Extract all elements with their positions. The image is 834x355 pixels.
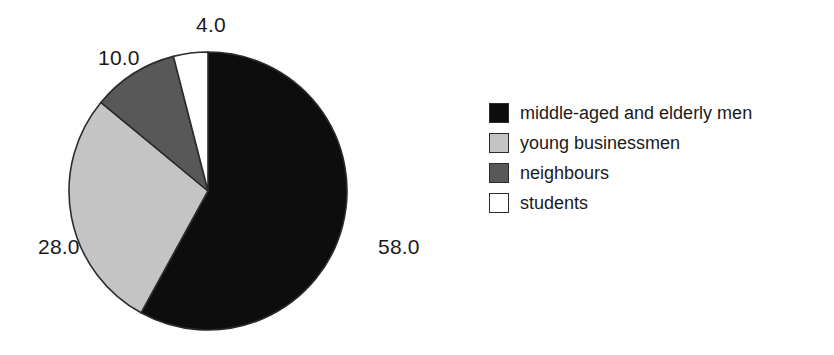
pie-value-label-middle-aged-and-elderly-men: 58.0: [378, 236, 420, 257]
legend-swatch-icon-middle-aged-and-elderly-men: [489, 103, 509, 123]
pie-chart-svg: [0, 0, 450, 355]
chart-legend: middle-aged and elderly men young busine…: [489, 102, 752, 214]
legend-item-middle-aged-and-elderly-men: middle-aged and elderly men: [489, 102, 752, 124]
legend-label-students: students: [520, 194, 588, 212]
legend-label-young-businessmen: young businessmen: [520, 134, 680, 152]
pie-chart-plot-area: 4.0 10.0 28.0 58.0: [0, 0, 450, 355]
legend-swatch-icon-students: [489, 193, 509, 213]
pie-chart-figure: 4.0 10.0 28.0 58.0 middle-aged and elder…: [0, 0, 834, 355]
legend-swatch-icon-neighbours: [489, 163, 509, 183]
pie-value-label-young-businessmen: 28.0: [38, 236, 80, 257]
legend-swatch-icon-young-businessmen: [489, 133, 509, 153]
legend-item-students: students: [489, 192, 752, 214]
legend-item-young-businessmen: young businessmen: [489, 132, 752, 154]
pie-slice-group: [69, 52, 347, 330]
legend-label-middle-aged-and-elderly-men: middle-aged and elderly men: [520, 104, 752, 122]
pie-value-label-students: 4.0: [196, 14, 226, 35]
pie-value-label-neighbours: 10.0: [98, 47, 140, 68]
legend-label-neighbours: neighbours: [520, 164, 609, 182]
legend-item-neighbours: neighbours: [489, 162, 752, 184]
